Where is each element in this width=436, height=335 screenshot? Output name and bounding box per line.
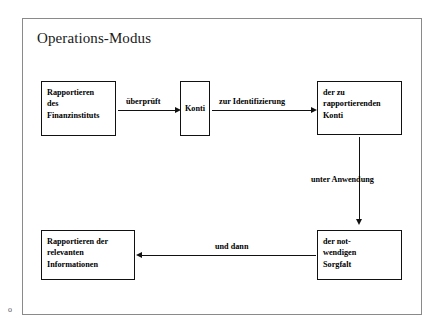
node-line: relevanten [47,247,130,258]
arrowhead-right-icon [175,107,181,113]
node-line: Rapportieren der [47,236,130,247]
node-konti[interactable]: Konti [180,81,210,136]
node-reporting-institution[interactable]: Rapportieren des Finanzinstituts [41,81,116,136]
arrowhead-down-icon [356,219,362,225]
arrowhead-right-icon [311,107,317,113]
connector-line-identifizierung [212,110,312,111]
node-line: Informationen [47,259,130,270]
node-line: rapportierenden [323,98,397,109]
edge-label-und-dann: und dann [215,242,248,251]
node-line: Rapportieren [47,87,111,98]
node-line: Konti [323,110,397,121]
node-line: des [47,98,111,109]
page-title: Operations-Modus [37,30,151,47]
node-line: der zu [323,87,397,98]
node-line: der not- [323,236,397,247]
edge-label-ueberprueft: überprüft [126,97,161,106]
node-reportable-konti[interactable]: der zu rapportierenden Konti [317,81,402,135]
node-line: Finanzinstituts [47,110,111,121]
arrowhead-left-icon [136,252,142,258]
diagram-page: Operations-Modus Rapportieren des Finanz… [0,0,436,335]
scan-artifact: o [8,305,12,314]
node-report-information[interactable]: Rapportieren der relevanten Informatione… [41,230,135,280]
node-due-diligence[interactable]: der not- wendigen Sorgfalt [317,230,402,280]
node-line: wendigen [323,247,397,258]
edge-label-identifizierung: zur Identifizierung [219,97,285,106]
connector-line-ueberprueft [118,110,176,111]
connector-line-und-dann [141,255,316,256]
edge-label-anwendung: unter Anwendung [311,175,374,184]
node-line: Sorgfalt [323,259,397,270]
node-line: Konti [185,103,205,114]
